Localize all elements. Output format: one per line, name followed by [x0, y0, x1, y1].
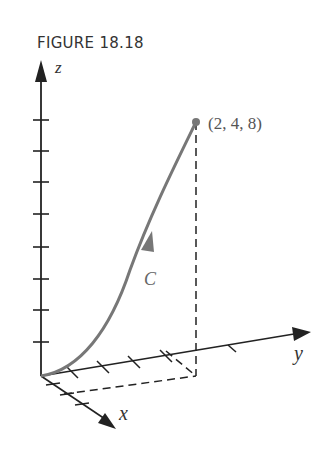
endpoint-dot	[192, 118, 200, 126]
curve-label: C	[144, 269, 157, 289]
endpoint-label: (2, 4, 8)	[208, 114, 262, 133]
x-axis	[41, 376, 116, 429]
curve-c	[41, 122, 196, 376]
diagram-canvas: z y x C (2, 4, 8)	[0, 0, 334, 449]
z-axis	[33, 60, 49, 376]
y-axis	[41, 327, 311, 378]
y-axis-label: y	[292, 342, 303, 365]
z-axis-label: z	[54, 58, 62, 77]
x-axis-label: x	[118, 402, 128, 424]
